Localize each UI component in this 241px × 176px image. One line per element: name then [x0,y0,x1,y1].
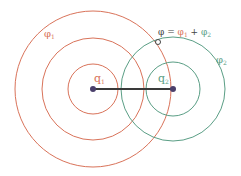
charge-q1-dot [90,86,96,92]
q2-label: q2 [158,73,169,85]
sum-phi2-subscript: 2 [207,31,211,38]
q1-symbol: q [94,72,101,85]
intersection-point [156,40,161,45]
plus-sign: + [188,27,201,37]
phi1-subscript: 1 [51,33,55,40]
q1-subscript: 1 [101,78,105,85]
q1-label: q1 [94,73,105,85]
phi1-symbol: φ [44,28,51,39]
q2-symbol: q [158,72,165,85]
phi1-label: φ1 [44,29,55,40]
phi2-symbol: φ [216,54,223,65]
phi2-label: φ2 [216,55,227,66]
charge-q2-dot [170,86,176,92]
q2-subscript: 2 [165,78,169,85]
equals-sign: = [164,27,177,37]
superposition-equation: φ = φ1 + φ2 [158,28,211,38]
phi2-subscript: 2 [223,59,227,66]
